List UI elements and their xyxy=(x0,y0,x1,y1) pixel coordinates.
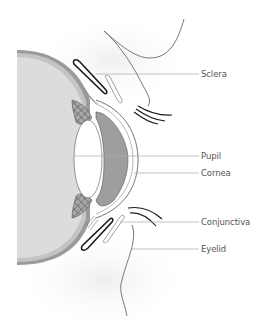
label-cornea: Cornea xyxy=(201,168,231,178)
vitreous-body xyxy=(17,57,82,258)
upper-eyelashes xyxy=(134,106,172,124)
label-sclera: Sclera xyxy=(201,69,227,79)
lens xyxy=(74,120,102,198)
label-conjunctiva: Conjunctiva xyxy=(201,217,250,227)
label-eyelid: Eyelid xyxy=(201,244,226,254)
label-pupil: Pupil xyxy=(201,151,221,161)
eye-anatomy-diagram xyxy=(0,0,260,327)
lower-eyelashes xyxy=(128,207,162,226)
